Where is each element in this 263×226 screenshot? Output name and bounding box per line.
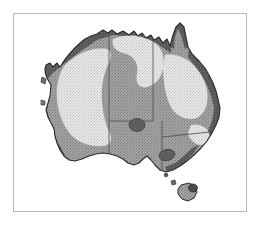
marker-central: [129, 119, 145, 132]
west-coast-islet: [41, 100, 45, 105]
king-island: [171, 180, 176, 185]
tasmania-landmass: [178, 183, 198, 201]
marker-tasmania: [189, 184, 198, 192]
mainland-landmass: [40, 22, 221, 172]
shark-bay-peninsula: [41, 77, 46, 84]
australia-map: [13, 13, 247, 212]
islet-bass-strait: [164, 173, 168, 177]
figure-container: [0, 0, 263, 226]
